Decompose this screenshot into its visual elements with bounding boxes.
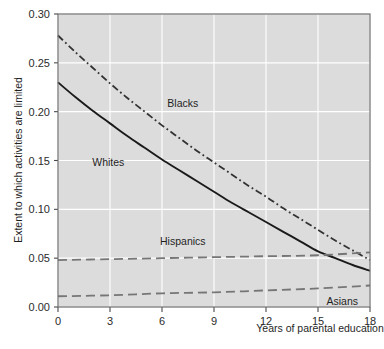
x-tick-label: 0 (55, 315, 61, 327)
line-chart: 0.000.050.100.150.200.250.30 0369121518 … (0, 0, 384, 349)
x-tick-label: 9 (211, 315, 217, 327)
series-label-asians: Asians (327, 295, 359, 307)
series-label-blacks: Blacks (167, 97, 198, 109)
y-tick-label: 0.10 (29, 203, 50, 215)
y-axis-title: Extent to which activities are limited (12, 77, 24, 243)
x-axis-title: Years of parental education (256, 322, 384, 334)
chart-figure: 0.000.050.100.150.200.250.30 0369121518 … (0, 0, 384, 349)
y-tick-label: 0.20 (29, 106, 50, 118)
x-tick-label: 3 (107, 315, 113, 327)
series-label-whites: Whites (92, 156, 124, 168)
x-tick-label: 6 (159, 315, 165, 327)
y-tick-label: 0.15 (29, 155, 50, 167)
y-tick-label: 0.05 (29, 252, 50, 264)
y-tick-label: 0.00 (29, 301, 50, 313)
y-tick-label: 0.25 (29, 57, 50, 69)
y-tick-label: 0.30 (29, 8, 50, 20)
series-label-hispanics: Hispanics (160, 235, 206, 247)
